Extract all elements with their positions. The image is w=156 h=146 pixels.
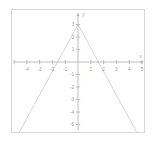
y-tick-label: 1 bbox=[72, 47, 75, 52]
y-tick-label: 3 bbox=[72, 22, 75, 27]
y-tick-labels: 3 2 1 -1 -2 -3 -4 -5 bbox=[70, 22, 75, 127]
graph-canvas: -4 -3 -2 -1 1 2 3 4 5 3 2 1 -1 -2 -3 -4 … bbox=[0, 0, 156, 146]
y-tick-label: 2 bbox=[72, 35, 75, 40]
x-tick-label: 2 bbox=[102, 67, 105, 72]
y-tick-label: -1 bbox=[70, 72, 75, 77]
x-tick-label: -3 bbox=[38, 67, 43, 72]
x-tick-label: -2 bbox=[50, 67, 55, 72]
x-tick-label: -1 bbox=[63, 67, 68, 72]
x-tick-label: 1 bbox=[90, 67, 93, 72]
y-tick-label: -2 bbox=[70, 85, 75, 90]
x-tick-label: 5 bbox=[141, 67, 144, 72]
y-tick-label: -3 bbox=[70, 97, 75, 102]
chart-figure: -4 -3 -2 -1 1 2 3 4 5 3 2 1 -1 -2 -3 -4 … bbox=[0, 0, 156, 146]
y-tick-label: -4 bbox=[70, 110, 75, 115]
x-tick-label: -4 bbox=[25, 67, 30, 72]
y-tick-label: -5 bbox=[70, 122, 75, 127]
x-tick-label: 4 bbox=[128, 67, 131, 72]
x-tick-label: 3 bbox=[115, 67, 118, 72]
